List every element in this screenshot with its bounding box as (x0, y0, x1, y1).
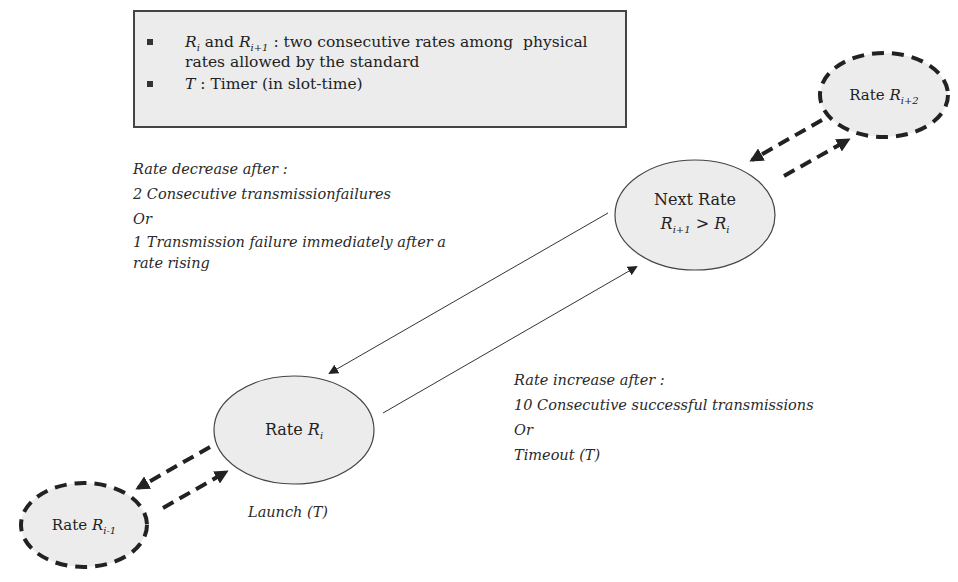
legend-box: Ri and Ri+1 : two consecutive rates amon… (133, 10, 627, 128)
node-rate-i-plus-2-label: Rate Ri+2 (824, 83, 944, 113)
arrow-dashed-from-next (784, 140, 848, 176)
bullet-icon (147, 81, 153, 87)
rate-decrease-note: Rate decrease after : 2 Consecutive tran… (133, 157, 446, 274)
arrow-dashed-to-next (752, 120, 822, 160)
arrow-dashed-to-prev (138, 447, 210, 488)
arrow-dashed-from-prev (163, 472, 226, 508)
node-rate-i-label: Rate Ri (234, 418, 354, 448)
launch-label: Launch (T) (248, 500, 328, 525)
node-next-rate-label: Next Rate Ri+1 > Ri (625, 188, 765, 242)
bullet-icon (147, 39, 153, 45)
node-rate-i-minus-1-label: Rate Ri-1 (24, 513, 144, 543)
rate-increase-note: Rate increase after : 10 Consecutive suc… (514, 368, 814, 468)
